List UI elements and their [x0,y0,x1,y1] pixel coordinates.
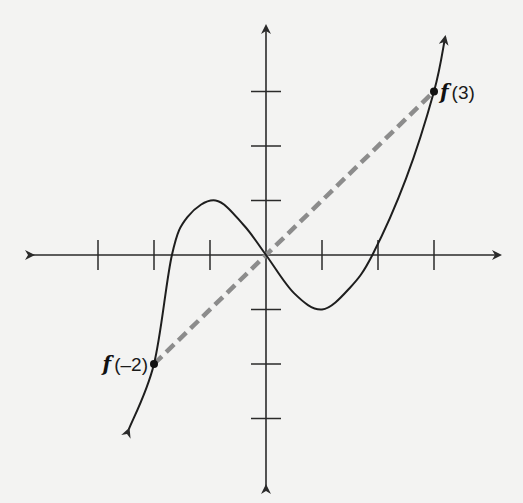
labeled-points: f(–2)f(3) [101,80,475,377]
point-marker [150,360,158,368]
function-curve [129,37,445,429]
secant-line-dashed [154,92,434,365]
point-marker [430,88,438,96]
point-label: f(–2) [101,352,148,376]
point-label: f(3) [438,80,475,104]
graph-canvas: f(–2)f(3) [0,0,523,503]
